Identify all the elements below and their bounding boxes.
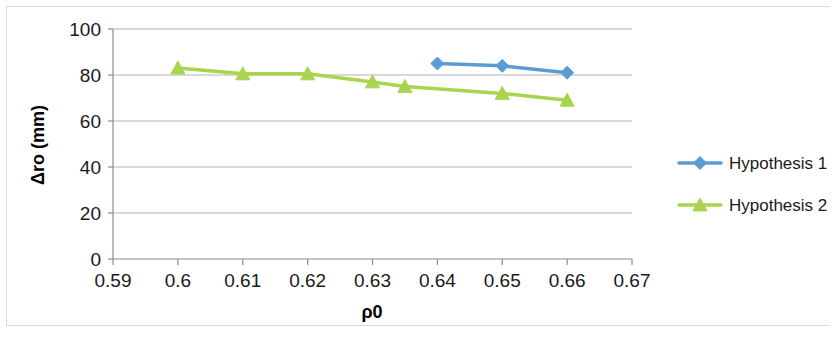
chart-figure: 020406080100 0.590.60.610.620.630.640.65… — [0, 0, 835, 350]
line-chart-plot: 020406080100 0.590.60.610.620.630.640.65… — [0, 0, 835, 350]
x-tick-label-0.62: 0.62 — [289, 270, 326, 291]
y-tick-label-20: 20 — [80, 203, 101, 224]
y-tick-label-80: 80 — [80, 65, 101, 86]
legend-label-2: Hypothesis 2 — [729, 196, 827, 215]
y-tick-label-60: 60 — [80, 111, 101, 132]
y-tick-label-40: 40 — [80, 157, 101, 178]
x-tick-label-0.64: 0.64 — [419, 270, 456, 291]
x-tick-label-0.61: 0.61 — [224, 270, 261, 291]
x-tick-label-0.6: 0.6 — [165, 270, 191, 291]
x-tick-label-0.66: 0.66 — [549, 270, 586, 291]
legend-item-2[interactable]: Hypothesis 2 — [679, 196, 827, 215]
y-tick-label-0: 0 — [90, 249, 101, 270]
y-axis-title: Δro (mm) — [28, 105, 48, 185]
data-point-diamond-icon — [561, 66, 574, 79]
y-axis-tick-labels: 020406080100 — [69, 19, 101, 270]
x-tick-label-0.63: 0.63 — [354, 270, 391, 291]
gridlines — [113, 29, 632, 213]
data-series-group — [171, 57, 574, 106]
series-1 — [431, 57, 574, 79]
x-axis-tick-labels: 0.590.60.610.620.630.640.650.660.67 — [95, 270, 651, 291]
legend: Hypothesis 1Hypothesis 2 — [679, 154, 827, 215]
legend-diamond-icon — [694, 157, 707, 170]
data-point-diamond-icon — [496, 59, 509, 72]
legend-item-1[interactable]: Hypothesis 1 — [679, 154, 827, 173]
x-tick-label-0.59: 0.59 — [95, 270, 132, 291]
data-point-diamond-icon — [431, 57, 444, 70]
y-tick-label-100: 100 — [69, 19, 101, 40]
x-axis-title: ρ0 — [361, 302, 382, 322]
legend-label-1: Hypothesis 1 — [729, 154, 827, 173]
x-tick-label-0.65: 0.65 — [484, 270, 521, 291]
axis-lines — [108, 29, 632, 265]
x-tick-label-0.67: 0.67 — [614, 270, 651, 291]
